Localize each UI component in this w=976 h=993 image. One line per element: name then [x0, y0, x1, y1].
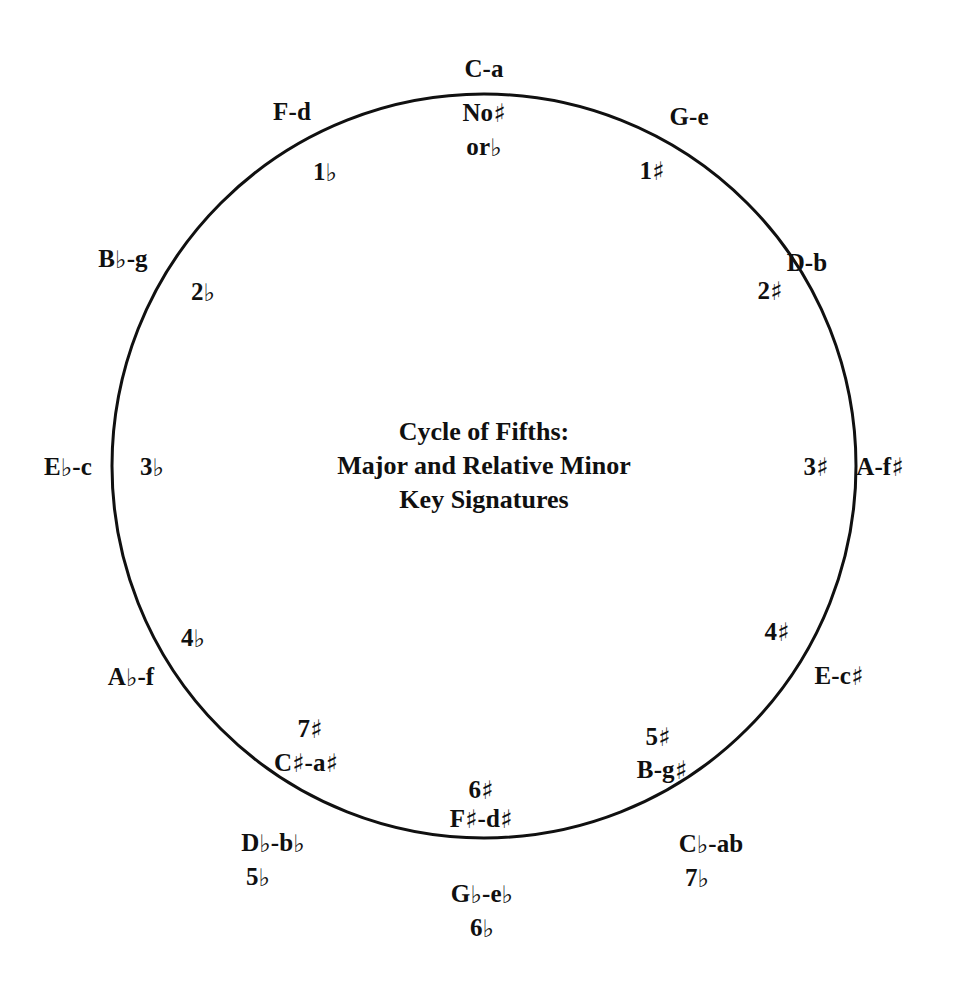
- inner-label-one-sharp: 1♯: [639, 156, 664, 185]
- outer-label-dflat-bflat: D♭-b♭: [241, 828, 305, 857]
- inner-label-six-sharps: 6♯: [468, 775, 493, 804]
- outer-label-g-e: G-e: [669, 102, 708, 131]
- inner-label-two-flats: 2♭: [191, 277, 215, 306]
- inner-label-or-flat: or♭: [466, 132, 501, 161]
- inner-label-csharp-asharp: C♯-a♯: [274, 748, 338, 777]
- inner-label-two-sharps: 2♯: [757, 276, 782, 305]
- center-title-line-3: Key Signatures: [337, 483, 630, 517]
- cycle-of-fifths-diagram: Cycle of Fifths: Major and Relative Mino…: [0, 0, 976, 993]
- outer-label-e-csharp: E-c♯: [815, 661, 864, 690]
- outer-label-cflat-aflat: C♭-ab: [679, 829, 744, 858]
- inner-label-seven-sharps: 7♯: [297, 714, 322, 743]
- inner-label-four-flats: 4♭: [181, 623, 205, 652]
- outer-label-six-flats: 6♭: [470, 913, 494, 942]
- outer-label-bflat-g: B♭-g: [98, 244, 147, 273]
- inner-label-three-sharps: 3♯: [803, 452, 828, 481]
- outer-label-seven-flats: 7♭: [685, 863, 709, 892]
- center-title: Cycle of Fifths: Major and Relative Mino…: [337, 415, 630, 516]
- inner-label-five-sharps: 5♯: [645, 722, 670, 751]
- outer-label-aflat-f: A♭-f: [108, 662, 155, 691]
- outer-label-c-a: C-a: [464, 54, 503, 83]
- inner-label-four-sharps: 4♯: [764, 617, 789, 646]
- outer-label-a-fsharp: A-f♯: [856, 452, 903, 481]
- outer-label-eflat-c: E♭-c: [44, 452, 92, 481]
- inner-label-no-sharp: No♯: [462, 98, 505, 127]
- inner-label-three-flats: 3♭: [140, 452, 164, 481]
- inner-label-one-flat: 1♭: [313, 157, 337, 186]
- outer-label-d-b: D-b: [787, 248, 828, 277]
- outer-label-five-flats: 5♭: [246, 862, 270, 891]
- center-title-line-1: Cycle of Fifths:: [337, 415, 630, 449]
- inner-label-fsharp-dsharp: F♯-d♯: [450, 804, 513, 833]
- center-title-line-2: Major and Relative Minor: [337, 449, 630, 483]
- outer-label-gflat-eflat: G♭-e♭: [451, 879, 513, 908]
- inner-label-b-gsharp: B-g♯: [637, 755, 687, 784]
- outer-label-f-d: F-d: [273, 97, 311, 126]
